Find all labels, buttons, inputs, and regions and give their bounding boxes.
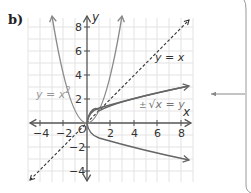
- y-tick-label: 4: [75, 69, 82, 82]
- parabola-label: y = x2: [35, 86, 70, 101]
- x-tick-label: 2: [107, 127, 114, 140]
- y-tick-label: −2: [69, 141, 85, 154]
- line-label: y = x: [154, 51, 185, 64]
- y-tick-label: 6: [75, 45, 82, 58]
- function-graph: −4 −2 2 4 6 8 8 6 4 2 −2 −4 O x y y = x2…: [0, 0, 251, 193]
- inverse-label: ±√x = y: [139, 98, 185, 111]
- sqrt-lower-curve: [87, 123, 189, 160]
- x-tick-label: 6: [154, 127, 161, 140]
- callout-box-edge: [244, 0, 251, 193]
- y-axis-label: y: [91, 10, 100, 24]
- y-tick-label: 8: [75, 21, 82, 34]
- x-tick-label: 4: [131, 127, 138, 140]
- y-tick-label: 2: [75, 93, 82, 106]
- y-tick-label: −4: [69, 165, 85, 178]
- x-tick-label: −2: [56, 127, 72, 140]
- origin-label: O: [78, 123, 87, 136]
- x-tick-label: 8: [178, 127, 185, 140]
- x-tick-label: −4: [33, 127, 49, 140]
